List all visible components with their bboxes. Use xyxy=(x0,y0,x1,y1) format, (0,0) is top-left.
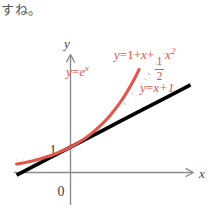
plot-canvas: y x 1 0 xyxy=(0,0,219,215)
origin-label: 0 xyxy=(58,184,65,199)
label-quadratic: y=1+x+12x2 xyxy=(114,47,175,83)
label-exp-exponent: x xyxy=(85,63,89,73)
x-axis xyxy=(14,169,194,177)
figure-root: すね。 y x 1 0 y=ex y=x+1 y=1+x+12x2 xyxy=(0,0,219,215)
label-quad-fraction: 12 xyxy=(155,56,164,83)
fraction-numerator: 1 xyxy=(156,56,164,68)
curve-exponential xyxy=(17,70,140,165)
label-quad-lead: 1+ xyxy=(127,47,141,62)
fraction-denominator: 2 xyxy=(156,71,164,83)
label-quad-tail-exponent: 2 xyxy=(171,46,175,56)
label-quad-plus: + xyxy=(147,47,154,62)
curve-linear xyxy=(17,85,191,175)
label-linear: y=x+1 xyxy=(140,81,174,94)
x-axis-label: x xyxy=(198,166,205,181)
label-exponential: y=ex xyxy=(66,64,89,78)
y-axis-label: y xyxy=(62,36,70,51)
